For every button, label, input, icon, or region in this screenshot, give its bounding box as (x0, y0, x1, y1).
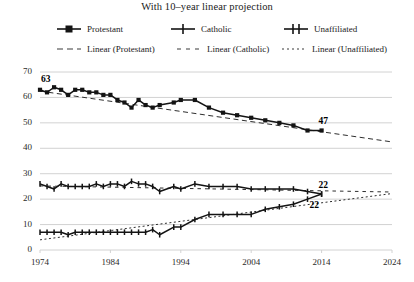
chart-container: With 10–year linear projection Protestan… (0, 0, 414, 282)
y-axis-tick-label: 20 (12, 193, 32, 203)
x-axis-tick-label: 2024 (372, 257, 412, 267)
y-axis-tick-label: 30 (12, 168, 32, 178)
series-group (38, 85, 324, 237)
y-axis-tick-label: 40 (12, 142, 32, 152)
x-axis-tick-label: 2004 (231, 257, 271, 267)
x-axis-tick-label: 1994 (161, 257, 201, 267)
y-axis-tick-label: 10 (12, 219, 32, 229)
data-point-label: 63 (41, 74, 51, 84)
y-axis-tick-label: 60 (12, 91, 32, 101)
y-axis-tick-label: 0 (12, 244, 32, 254)
chart-plot-area (0, 0, 414, 282)
x-axis-tick-label: 2014 (302, 257, 342, 267)
y-axis-tick-label: 70 (12, 66, 32, 76)
data-point-label: 22 (319, 180, 329, 190)
trendline-group (40, 91, 392, 240)
data-point-label: 22 (310, 200, 320, 210)
data-point-label: 47 (319, 116, 329, 126)
x-axis-tick-label: 1974 (20, 257, 60, 267)
x-axis-tick-label: 1984 (90, 257, 130, 267)
y-axis-tick-label: 50 (12, 117, 32, 127)
